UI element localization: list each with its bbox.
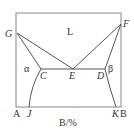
region-label-liquid: L [67, 26, 73, 37]
axis-label-a: A [13, 108, 21, 119]
solvus-line-right [105, 69, 116, 107]
phase-diagram: G F L α β C E D A J K B B/% [0, 0, 134, 133]
point-label-j: J [27, 108, 32, 119]
point-label-k: K [111, 108, 120, 119]
point-label-c: C [40, 70, 47, 81]
axis-label-b: B [120, 108, 127, 119]
liquidus-line-right [73, 24, 121, 69]
point-label-d: D [96, 70, 105, 81]
point-label-e: E [68, 70, 75, 81]
region-label-alpha: α [24, 63, 30, 74]
point-label-g: G [5, 28, 12, 39]
x-axis-label: B/% [59, 117, 77, 128]
region-label-beta: β [108, 63, 113, 74]
point-label-f: F [122, 18, 130, 29]
